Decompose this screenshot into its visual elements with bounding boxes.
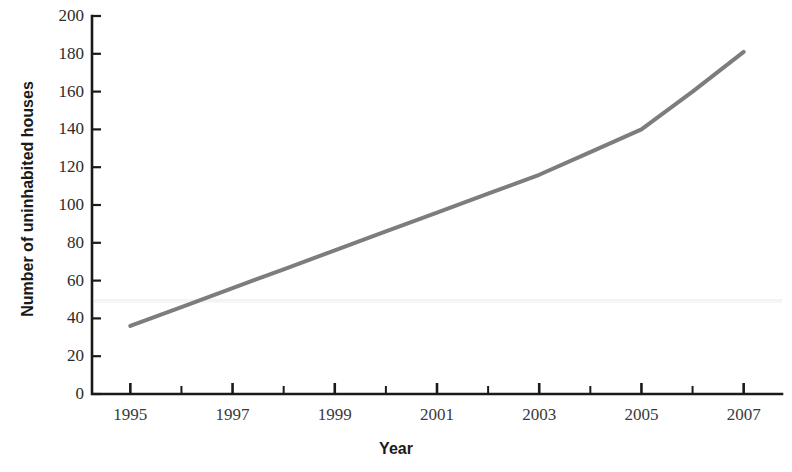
x-axis-tick-label: 2005 [606, 406, 676, 423]
x-axis-tick-label: 2007 [709, 406, 779, 423]
line-chart-figure: Number of uninhabited houses Year 020406… [0, 0, 792, 472]
y-axis-tick-label: 80 [38, 234, 84, 251]
y-axis-tick-label: 60 [38, 272, 84, 289]
x-axis-tick-label: 2003 [504, 406, 574, 423]
x-axis-tick-label: 2001 [402, 406, 472, 423]
y-axis-tick-label: 40 [38, 309, 84, 326]
plot-area [0, 0, 792, 472]
y-axis-tick-label: 200 [38, 7, 84, 24]
y-axis-tick-label: 100 [38, 196, 84, 213]
y-axis-tick-label: 120 [38, 158, 84, 175]
y-axis-tick-label: 140 [38, 120, 84, 137]
data-line-series-uninhabited-houses [130, 52, 743, 326]
x-axis-tick-label: 1999 [300, 406, 370, 423]
x-axis-tick-label: 1997 [198, 406, 268, 423]
y-axis-tick-label: 180 [38, 45, 84, 62]
x-axis-tick-label: 1995 [95, 406, 165, 423]
y-axis-tick-label: 20 [38, 347, 84, 364]
y-axis-tick-label: 160 [38, 83, 84, 100]
y-axis-tick-label: 0 [38, 385, 84, 402]
axis-lines [92, 16, 782, 394]
